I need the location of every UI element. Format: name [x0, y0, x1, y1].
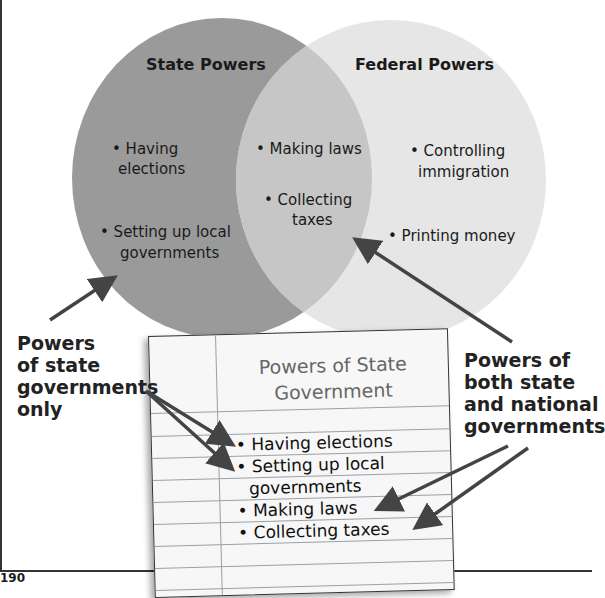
- arrow-to-having-elections: [146, 391, 230, 443]
- arrow-to-state-circle: [50, 279, 112, 320]
- arrow-to-setting-up: [146, 391, 230, 467]
- arrow-to-overlap: [358, 241, 512, 342]
- arrow-to-collecting-taxes: [418, 448, 528, 526]
- page-number: 190: [0, 571, 25, 585]
